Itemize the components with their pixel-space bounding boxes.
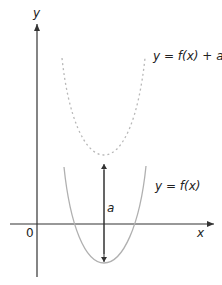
y-axis-label: y (32, 6, 41, 20)
origin-label: 0 (26, 226, 34, 240)
curve-translated (62, 58, 145, 155)
curve-original-label: y = f(x) (154, 179, 200, 193)
x-axis-label: x (196, 226, 205, 240)
translation-diagram: y x 0 a y = f(x) + a y = f(x) (0, 0, 222, 285)
curve-original (64, 166, 146, 263)
translation-label: a (107, 201, 114, 215)
curve-translated-label: y = f(x) + a (152, 49, 222, 63)
